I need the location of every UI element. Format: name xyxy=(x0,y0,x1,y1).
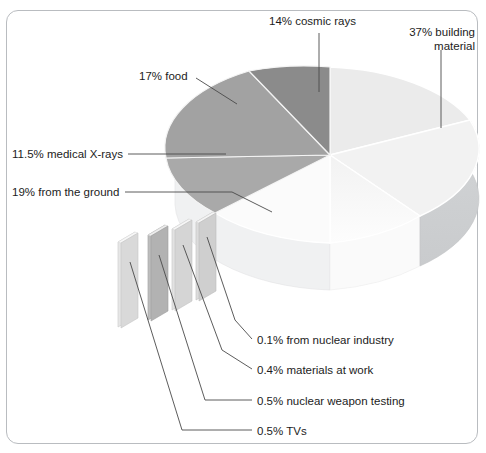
pie-slice-materials-at-work[interactable] xyxy=(172,219,192,311)
slice-label-nuclear-weapon-testing: 0.5% nuclear weapon testing xyxy=(257,395,405,409)
slice-label-medical-xrays: 11.5% medical X-rays xyxy=(12,148,123,162)
slice-label-cosmic-rays: 14% cosmic rays xyxy=(269,15,356,29)
pie-chart-graphic xyxy=(0,0,486,453)
slice-label-food: 17% food xyxy=(139,70,188,84)
slice-label-tvs: 0.5% TVs xyxy=(257,425,307,439)
pie-slice-tvs[interactable] xyxy=(118,232,138,328)
slice-label-from-the-ground: 19% from the ground xyxy=(12,186,119,200)
slice-label-from-nuclear-industry: 0.1% from nuclear industry xyxy=(257,334,394,348)
slice-label-building-material: 37% building material xyxy=(389,26,475,53)
slice-label-materials-at-work: 0.4% materials at work xyxy=(257,364,373,378)
